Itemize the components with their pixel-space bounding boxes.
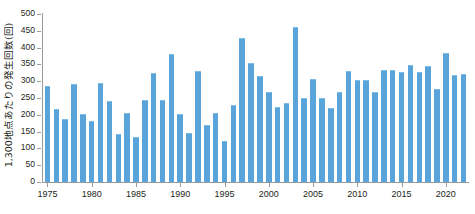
x-axis-tick-label: 1990 [170,189,190,199]
y-axis-tick-label: 200 [21,109,35,119]
bar-highlight [177,114,182,115]
bar-highlight [186,133,191,134]
bar [151,73,156,182]
bar-highlight [160,100,165,101]
bar-highlight [71,84,76,85]
bar [54,109,59,182]
bar [213,113,218,182]
y-axis-tick-label: 50 [26,159,35,169]
bar [80,114,85,182]
y-axis-tick-label: 250 [21,92,35,102]
bar-highlight [169,54,174,55]
x-axis-tick-label: 2005 [303,189,323,199]
bar-chart: 1,300地点あたりの発生回数(回) 050100150200250300350… [0,0,475,214]
bar [408,65,413,182]
bar-highlight [293,27,298,28]
x-axis-tick-mark [47,183,48,187]
bar-highlight [62,119,67,120]
bar [346,71,351,182]
bar [62,119,67,183]
bar [355,80,360,182]
y-axis-tick-mark [37,31,41,32]
bar-highlight [275,107,280,108]
y-axis-tick-label: 150 [21,126,35,136]
bar [301,98,306,182]
bar-highlight [381,70,386,71]
y-axis-tick-mark [37,98,41,99]
bar-highlight [417,72,422,73]
bar [89,121,94,182]
bar-highlight [399,72,404,73]
x-axis-tick-mark [269,183,270,187]
bar [372,92,377,182]
bar-highlight [390,70,395,71]
y-axis-tick-label: 0 [30,176,35,186]
bar-highlight [133,137,138,138]
bar-highlight [89,121,94,122]
bar-highlight [248,63,253,64]
bar [275,107,280,182]
bar-highlight [452,75,457,76]
bar [186,133,191,182]
bar [177,114,182,182]
bar-highlight [239,38,244,39]
bar [363,80,368,182]
x-axis-tick-label: 2010 [347,189,367,199]
y-axis-tick-mark [37,148,41,149]
x-axis-tick-mark [225,183,226,187]
bar [160,100,165,182]
bar [425,66,430,182]
bar-highlight [124,113,129,114]
y-axis-title-label: 1,300地点あたりの発生回数(回) [1,23,15,168]
bar [443,53,448,182]
bar-highlight [425,66,430,67]
bar-highlight [222,141,227,142]
y-axis-tick-mark [37,64,41,65]
bar-highlight [98,83,103,84]
bar-highlight [337,92,342,93]
bar-highlight [310,79,315,80]
bar [381,70,386,182]
bar-highlight [45,86,50,87]
bar-highlight [204,125,209,126]
bar [319,98,324,182]
bar [169,54,174,182]
x-axis-tick-label: 1980 [82,189,102,199]
y-axis-tick-label: 300 [21,75,35,85]
x-axis-tick-mark [313,183,314,187]
y-axis-tick-mark [37,165,41,166]
x-axis-line [42,182,469,183]
bar-highlight [195,71,200,72]
bar-highlight [355,80,360,81]
bar [248,63,253,182]
y-axis-tick-label: 400 [21,42,35,52]
bar-highlight [328,108,333,109]
x-axis-tick-label: 1975 [37,189,57,199]
bar-highlight [434,89,439,90]
bar [107,101,112,182]
y-axis-tick-mark [37,182,41,183]
bar [204,125,209,182]
x-axis-tick-label: 1995 [214,189,234,199]
x-axis-tick-mark [357,183,358,187]
bar [434,89,439,182]
bar-highlight [408,65,413,66]
x-axis-tick-label: 1985 [126,189,146,199]
bar [98,83,103,182]
y-axis-tick-mark [37,132,41,133]
bar [222,141,227,182]
bar [71,84,76,182]
bar [417,72,422,182]
bar-highlight [257,76,262,77]
x-axis-tick-label: 2020 [436,189,456,199]
bar [310,79,315,182]
bar-highlight [151,73,156,74]
bar [284,103,289,182]
bar-highlight [231,105,236,106]
bar [266,92,271,182]
bar [461,74,466,182]
x-axis-tick-mark [402,183,403,187]
bar-highlight [301,98,306,99]
bar-highlight [372,92,377,93]
bar-highlight [284,103,289,104]
